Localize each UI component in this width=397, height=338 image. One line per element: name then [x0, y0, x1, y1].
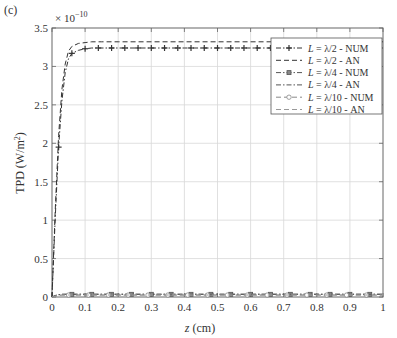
x-tick-label: 0.3: [144, 301, 158, 313]
y-axis-label: TPD (W/m2): [13, 132, 27, 194]
x-tick-label: 0.8: [310, 301, 324, 313]
y-multiplier: × 10−10: [55, 10, 87, 24]
y-tick-label: 3.5: [34, 22, 48, 34]
legend-label: L = λ/2 - NUM: [307, 43, 369, 54]
x-tick-label: 0.6: [244, 301, 258, 313]
y-tick-label: 3: [43, 60, 49, 72]
x-axis-label: z (cm): [184, 321, 215, 335]
x-tick-label: 0.9: [343, 301, 357, 313]
x-tick-label: 0.4: [178, 301, 192, 313]
tpd-line-chart: 00.10.20.30.40.50.60.70.80.9100.511.522.…: [0, 0, 397, 338]
y-tick-label: 1.5: [34, 176, 48, 188]
panel-label: (c): [4, 3, 17, 17]
y-tick-label: 0.5: [34, 253, 48, 265]
legend-label: L = λ/4 - AN: [307, 79, 360, 90]
legend-label: L = λ/10 - AN: [307, 104, 365, 115]
y-tick-label: 2: [43, 137, 49, 149]
legend-label: L = λ/4 - NUM: [307, 67, 369, 78]
x-tick-label: 0.7: [277, 301, 291, 313]
x-tick-label: 1: [380, 301, 386, 313]
y-tick-label: 2.5: [34, 99, 48, 111]
x-tick-label: 0: [49, 301, 55, 313]
y-tick-label: 0: [43, 291, 49, 303]
x-tick-label: 0.5: [211, 301, 225, 313]
legend-label: L = λ/10 - NUM: [307, 92, 374, 103]
y-tick-label: 1: [43, 214, 49, 226]
x-tick-label: 0.2: [111, 301, 125, 313]
legend: L = λ/2 - NUML = λ/2 - ANL = λ/4 - NUML …: [271, 38, 382, 115]
legend-label: L = λ/2 - AN: [307, 55, 360, 66]
x-tick-label: 0.1: [78, 301, 92, 313]
